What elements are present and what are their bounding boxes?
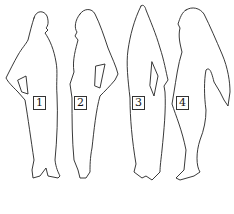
figure-1-outline: [6, 12, 60, 178]
label-2: 2: [74, 96, 87, 110]
figure-2-outline: [70, 10, 118, 179]
figure-4-outline: [172, 8, 230, 180]
figure-3-outline: [127, 5, 168, 180]
label-4: 4: [176, 96, 189, 110]
label-1: 1: [33, 96, 46, 110]
label-3: 3: [132, 96, 145, 110]
